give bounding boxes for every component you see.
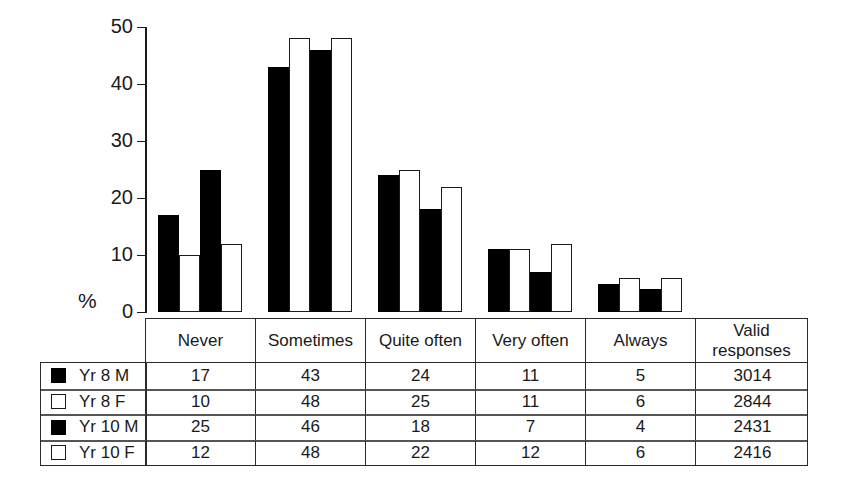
table-cell: 4 xyxy=(586,415,696,440)
legend-label: Yr 10 F xyxy=(79,443,135,463)
table-column-header: Always xyxy=(585,318,695,362)
bar xyxy=(179,255,200,312)
bar-group xyxy=(598,22,682,312)
y-tick-mark xyxy=(137,141,146,142)
table-column-header: Very often xyxy=(475,318,585,362)
valid-responses-line2: responses xyxy=(712,341,790,360)
legend-entry: Yr 8 F xyxy=(41,390,146,415)
bar-group xyxy=(378,22,462,312)
bar xyxy=(268,67,289,312)
bar xyxy=(488,249,509,312)
bar xyxy=(640,289,661,312)
bar xyxy=(420,209,441,312)
legend-swatch-hollow xyxy=(51,394,66,409)
y-axis-line xyxy=(145,27,147,313)
table-cell: 11 xyxy=(476,390,586,415)
bar xyxy=(551,244,572,312)
bar xyxy=(598,284,619,313)
table-cell: 7 xyxy=(476,415,586,440)
table-cell: 12 xyxy=(476,441,586,466)
table-column-header: Quite often xyxy=(365,318,475,362)
legend-entry: Yr 8 M xyxy=(41,363,146,389)
legend-label: Yr 8 F xyxy=(79,392,125,412)
bar xyxy=(378,175,399,312)
bar xyxy=(310,50,331,312)
legend-entry: Yr 10 M xyxy=(41,415,146,440)
bar xyxy=(331,38,352,312)
legend-column-divider xyxy=(146,363,147,465)
table-column-header: Never xyxy=(145,318,255,362)
y-tick-label: 10 xyxy=(89,244,133,264)
table-body: Yr 8 M1743241153014Yr 8 F1048251162844Yr… xyxy=(40,362,808,466)
bar xyxy=(530,272,551,312)
bar-group xyxy=(488,22,572,312)
table-cell: 24 xyxy=(366,363,476,389)
y-tick-label: 40 xyxy=(89,73,133,93)
table-column-header: Sometimes xyxy=(255,318,365,362)
valid-responses-line1: Valid xyxy=(733,321,770,340)
bar-chart-plot: % 50403020100 xyxy=(0,0,852,330)
legend-entry: Yr 10 F xyxy=(41,441,146,466)
table-cell: 18 xyxy=(366,415,476,440)
table-cell: 6 xyxy=(586,441,696,466)
chart-figure: % 50403020100 NeverSometimesQuite oftenV… xyxy=(0,0,852,486)
table-cell: 6 xyxy=(586,390,696,415)
table-row: Yr 10 M254618742431 xyxy=(41,414,807,440)
bar xyxy=(200,170,221,313)
table-cell: 10 xyxy=(146,390,256,415)
bar xyxy=(441,187,462,312)
table-cell: 22 xyxy=(366,441,476,466)
table-cell-valid-responses: 3014 xyxy=(696,363,809,389)
table-cell: 25 xyxy=(366,390,476,415)
bar xyxy=(158,215,179,312)
bar xyxy=(221,244,242,312)
table-row: Yr 8 M1743241153014 xyxy=(41,363,807,389)
table-cell: 25 xyxy=(146,415,256,440)
table-cell: 48 xyxy=(256,441,366,466)
table-row: Yr 10 F1248221262416 xyxy=(41,440,807,466)
bar xyxy=(661,278,682,312)
bar xyxy=(289,38,310,312)
table-cell-valid-responses: 2431 xyxy=(696,415,809,440)
y-tick-label: 30 xyxy=(89,130,133,150)
table-cell: 17 xyxy=(146,363,256,389)
legend-swatch-filled xyxy=(51,368,66,383)
bar xyxy=(619,278,640,312)
table-column-header-valid-responses: Validresponses xyxy=(695,318,808,362)
bar xyxy=(509,249,530,312)
y-tick-label: 20 xyxy=(89,187,133,207)
bar xyxy=(399,170,420,313)
y-tick-mark xyxy=(137,198,146,199)
table-cell: 11 xyxy=(476,363,586,389)
legend-label: Yr 10 M xyxy=(79,417,139,437)
table-row: Yr 8 F1048251162844 xyxy=(41,389,807,415)
y-tick-mark xyxy=(137,312,146,313)
y-tick-label: 50 xyxy=(89,16,133,36)
table-cell: 43 xyxy=(256,363,366,389)
bar-group xyxy=(268,22,352,312)
legend-label: Yr 8 M xyxy=(79,366,129,386)
table-cell: 12 xyxy=(146,441,256,466)
data-table: NeverSometimesQuite oftenVery oftenAlway… xyxy=(0,318,852,486)
bar-group xyxy=(158,22,242,312)
table-cell-valid-responses: 2416 xyxy=(696,441,809,466)
y-tick-mark xyxy=(137,27,146,28)
legend-swatch-hollow xyxy=(51,445,66,460)
y-tick-mark xyxy=(137,84,146,85)
table-cell-valid-responses: 2844 xyxy=(696,390,809,415)
table-cell: 46 xyxy=(256,415,366,440)
legend-swatch-filled xyxy=(51,420,66,435)
table-cell: 5 xyxy=(586,363,696,389)
table-cell: 48 xyxy=(256,390,366,415)
y-tick-mark xyxy=(137,255,146,256)
